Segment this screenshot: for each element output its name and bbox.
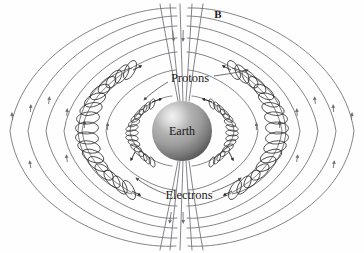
inner-helix-arrow-right-bottom [229,152,233,160]
field-vector-label-b: B [214,8,222,20]
inner-helix-arrow-left-bottom [131,152,135,160]
inner-helix-arrow-left-top [152,99,161,102]
earth-label: Earth [169,124,195,138]
field-arrow-left-5 [49,98,50,104]
protons-label: Protons [171,71,209,85]
magnetosphere-diagram-canvas: Earth B Protons Electrons [0,0,364,253]
outer-helix-guide-right [232,68,286,194]
outer-helix-guide-left [78,68,132,194]
field-arrow-right-0 [333,162,334,168]
field-arrow-left-1 [66,156,67,162]
outer-helix-loops-left [75,58,139,201]
polar-arrow-bottom-a [170,212,171,222]
field-arrow-right-7 [351,114,352,120]
field-arrow-right-5 [315,98,316,104]
field-arrow-right-1 [297,156,298,162]
earth-sphere: Earth [152,101,212,161]
inner-helix-loops-left [125,98,156,168]
field-arrow-left-7 [12,114,13,120]
inner-helix-arrow-right-top [203,99,212,102]
electrons-leader-left [136,178,166,194]
magnetosphere-figure: Earth B Protons Electrons [0,0,364,253]
outer-helix-loops-right [225,58,289,201]
field-arrow-left-0 [30,162,31,168]
inner-helix-loops-right [208,98,239,168]
polar-field-line-bottom-1 [160,161,178,250]
polar-field-line-top-3 [180,4,183,101]
electrons-label: Electrons [165,188,212,202]
polar-field-line-bottom-3 [180,161,183,250]
